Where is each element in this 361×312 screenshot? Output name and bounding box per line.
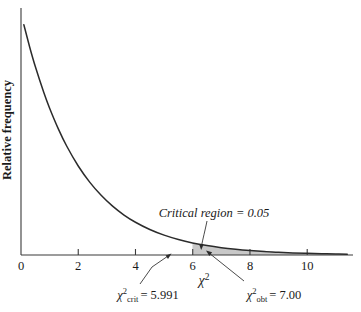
chi-square-distribution-chart: 0 2 4 6 8 10 χ2 Relative frequency Criti… xyxy=(0,0,361,312)
x-tick-label: 10 xyxy=(301,259,314,273)
y-axis-title: Relative frequency xyxy=(0,79,14,180)
chi-square-critical-arrowhead xyxy=(166,254,172,260)
chi-square-critical-leader-line xyxy=(140,256,168,284)
x-tick-label: 0 xyxy=(18,259,24,273)
chi-square-critical-label: χ2crit= 5.991 xyxy=(116,286,178,304)
x-tick-label: 4 xyxy=(132,259,139,273)
chi-square-obtained-leader-line xyxy=(209,253,244,281)
chi-square-critical-subscript: crit xyxy=(127,294,139,304)
x-tick-label: 2 xyxy=(75,259,81,273)
chi-square-critical-value: = 5.991 xyxy=(140,288,178,302)
x-tick-label: 6 xyxy=(190,259,196,273)
chi-square-obtained-label: χ2obt= 7.00 xyxy=(246,286,302,304)
chi-square-obtained-subscript: obt xyxy=(256,294,268,304)
x-axis-title: χ2 xyxy=(197,272,210,288)
chart-canvas: 0 2 4 6 8 10 χ2 Relative frequency Criti… xyxy=(0,0,361,312)
critical-region-label: Critical region = 0.05 xyxy=(159,206,270,220)
x-tick-label: 8 xyxy=(247,259,253,273)
x-axis-title-superscript: 2 xyxy=(205,272,210,282)
critical-region-leader-line xyxy=(202,221,208,246)
chi-square-obtained-value: = 7.00 xyxy=(269,288,301,302)
